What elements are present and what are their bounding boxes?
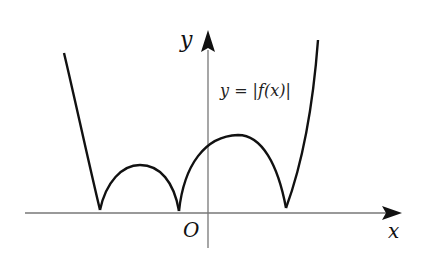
function-graph: y x O y = |f(x)|	[0, 0, 427, 254]
curve-right-arch	[179, 135, 286, 211]
curve-right-branch	[286, 40, 318, 208]
curve-equation-label: y = |f(x)|	[219, 81, 291, 100]
curve-left-arch	[100, 165, 179, 211]
curve-left-branch	[64, 53, 100, 210]
origin-label: O	[183, 218, 199, 242]
x-axis-label: x	[388, 219, 399, 243]
y-axis-label: y	[179, 27, 193, 52]
y-axis-arrow-icon	[201, 30, 215, 52]
